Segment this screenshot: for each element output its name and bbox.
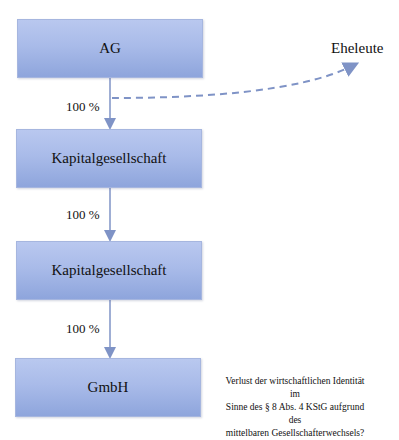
node-gmbh: GmbH: [15, 358, 201, 417]
node-label: GmbH: [88, 379, 129, 396]
node-label: AG: [99, 40, 121, 57]
edge-label-ag-kapital1: 100 %: [66, 99, 100, 115]
note-line-2: Sinne des § 8 Abs. 4 KStG aufgrund des: [220, 401, 370, 427]
question-note: Verlust der wirtschaftlichen Identität i…: [220, 375, 370, 440]
node-kapitalgesellschaft-1: Kapitalgesellschaft: [16, 129, 202, 188]
note-line-1: Verlust der wirtschaftlichen Identität i…: [220, 375, 370, 401]
edge-label-kapital2-gmbh: 100 %: [66, 321, 100, 337]
node-kapitalgesellschaft-2: Kapitalgesellschaft: [16, 241, 202, 300]
eheleute-label: Eheleute: [331, 40, 383, 57]
note-line-3: mittelbaren Gesellschafterwechsels?: [220, 427, 370, 440]
node-ag: AG: [17, 19, 203, 78]
node-label: Kapitalgesellschaft: [52, 150, 167, 167]
edge-label-kapital1-kapital2: 100 %: [66, 207, 100, 223]
node-label: Kapitalgesellschaft: [52, 262, 167, 279]
